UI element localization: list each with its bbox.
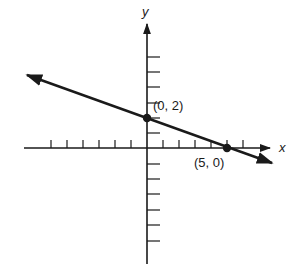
- y-axis: [147, 24, 160, 264]
- point-x-intercept-label: (5, 0): [194, 155, 224, 170]
- point-y-intercept-label: (0, 2): [153, 98, 183, 113]
- coordinate-graph: y x (0, 2) (5, 0): [0, 0, 301, 276]
- y-axis-ticks: [147, 57, 160, 241]
- point-y-intercept: [143, 114, 151, 122]
- point-x-intercept: [223, 144, 231, 152]
- x-axis-label: x: [278, 140, 286, 155]
- y-axis-label: y: [141, 4, 150, 19]
